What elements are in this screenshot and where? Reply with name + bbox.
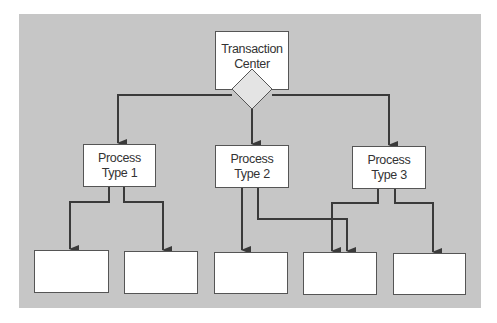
leaf-box-1 <box>34 250 109 293</box>
leaf-box-3 <box>214 252 288 294</box>
process-type-2-label-line2: Type 2 <box>234 167 270 182</box>
process-type-2-label-line1: Process <box>230 152 273 167</box>
leaf-box-2 <box>124 251 198 294</box>
leaf-box-4 <box>303 252 377 295</box>
process-type-3-box: Process Type 3 <box>352 146 426 189</box>
process-type-2-box: Process Type 2 <box>215 145 289 188</box>
process-type-1-box: Process Type 1 <box>83 144 156 187</box>
process-type-1-label-line2: Type 1 <box>102 166 138 181</box>
process-type-3-label-line2: Type 3 <box>371 168 407 183</box>
process-type-3-label-line1: Process <box>367 153 410 168</box>
leaf-box-5 <box>393 253 466 295</box>
process-type-1-label-line1: Process <box>98 151 141 166</box>
